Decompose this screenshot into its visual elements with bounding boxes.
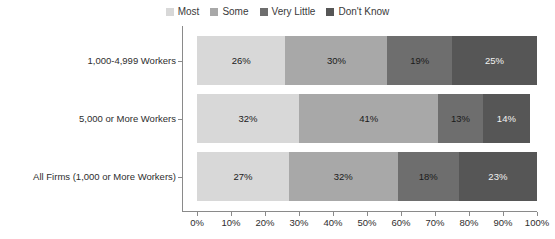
bar-row: 27%32%18%23% [197,152,537,201]
bar-segment[interactable]: 18% [398,152,459,201]
x-axis-tick-label: 100% [517,217,555,228]
legend-item-label: Most [178,7,200,17]
bar-segment[interactable]: 41% [299,94,438,143]
category-axis-label: All Firms (1,000 or More Workers) [0,171,176,182]
x-axis-tick-mark [503,212,504,216]
x-axis-tick-mark [401,212,402,216]
legend-item[interactable]: Don't Know [326,7,389,17]
bar-segment-value-label: 18% [419,172,438,182]
legend-item-label: Some [222,7,248,17]
bar-segment[interactable]: 25% [452,36,537,85]
category-tick-mark [178,119,183,120]
x-axis-tick-mark [197,212,198,216]
legend-swatch-icon [166,8,174,16]
category-axis-label: 1,000-4,999 Workers [0,55,176,66]
legend-item-label: Don't Know [338,7,389,17]
bar-segment-value-label: 14% [497,114,516,124]
bar-segment[interactable]: 32% [197,94,299,143]
stacked-bar-chart: MostSomeVery LittleDon't Know 1,000-4,99… [0,0,555,239]
legend-swatch-icon [210,8,218,16]
bar-segment[interactable]: 30% [285,36,387,85]
bar-segment-value-label: 30% [327,56,346,66]
legend-item[interactable]: Most [166,7,200,17]
bar-segment-value-label: 13% [451,114,470,124]
bar-segment[interactable]: 27% [197,152,289,201]
legend-item-label: Very Little [272,7,316,17]
bar-segment-value-label: 41% [359,114,378,124]
bar-segment-value-label: 27% [233,172,252,182]
bar-row: 32%41%13%14% [197,94,537,143]
x-axis-tick-mark [333,212,334,216]
bar-segment[interactable]: 23% [459,152,537,201]
legend-swatch-icon [260,8,268,16]
bar-segment-value-label: 23% [488,172,507,182]
legend-item[interactable]: Some [210,7,248,17]
x-axis-tick-mark [367,212,368,216]
x-axis-tick-mark [231,212,232,216]
x-axis-tick-mark [299,212,300,216]
bar-segment-value-label: 32% [334,172,353,182]
bar-segment[interactable]: 13% [438,94,482,143]
bar-segment-value-label: 25% [485,56,504,66]
bar-segment[interactable]: 19% [387,36,452,85]
x-axis-tick-mark [537,212,538,216]
category-axis-label: 5,000 or More Workers [0,113,176,124]
legend-item[interactable]: Very Little [260,7,316,17]
bar-segment-value-label: 26% [232,56,251,66]
chart-legend: MostSomeVery LittleDon't Know [0,7,555,17]
bar-segment[interactable]: 32% [289,152,398,201]
bar-segment[interactable]: 14% [483,94,531,143]
bar-segment-value-label: 32% [238,114,257,124]
category-tick-mark [178,177,183,178]
legend-swatch-icon [326,8,334,16]
x-axis-tick-mark [265,212,266,216]
bar-segment-value-label: 19% [410,56,429,66]
bar-row: 26%30%19%25% [197,36,537,85]
category-tick-mark [178,61,183,62]
x-axis-tick-mark [469,212,470,216]
x-axis-tick-mark [435,212,436,216]
bar-segment[interactable]: 26% [197,36,285,85]
